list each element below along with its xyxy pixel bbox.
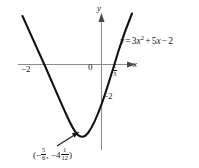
- y-intercept-label: −2: [103, 92, 113, 101]
- x-intercept-right-label: 13: [112, 63, 117, 78]
- vertex-leader-arrow: [57, 132, 80, 146]
- vertex-x-sign: −: [36, 150, 41, 160]
- vertex-coordinate-label: (−56, −4112): [33, 147, 72, 162]
- parabola-figure: y x 0 −2 13 −2 y=3x2+5x−2 (−56, −4112): [0, 0, 199, 168]
- graph-canvas: [0, 0, 199, 168]
- x-intercept-left-label: −2: [21, 65, 31, 74]
- y-axis-label: y: [97, 4, 101, 13]
- equation-equals: =: [124, 36, 132, 46]
- fraction-one-third: 13: [112, 63, 117, 78]
- vertex-comma: ,: [46, 150, 48, 160]
- equation-label: y=3x2+5x−2: [120, 37, 173, 47]
- fraction-denominator: 3: [112, 71, 117, 78]
- equation-var: x: [156, 36, 160, 46]
- equation-plus: +: [144, 36, 152, 46]
- vertex-y-fraction: 112: [61, 147, 69, 162]
- origin-label: 0: [88, 63, 93, 72]
- x-axis-label: x: [133, 60, 137, 69]
- vertex-close-paren: ): [69, 150, 72, 160]
- y-axis: [98, 13, 104, 150]
- equation-constant: 2: [168, 36, 173, 46]
- vertex-y-denominator: 12: [61, 155, 69, 162]
- x-axis: [18, 61, 136, 67]
